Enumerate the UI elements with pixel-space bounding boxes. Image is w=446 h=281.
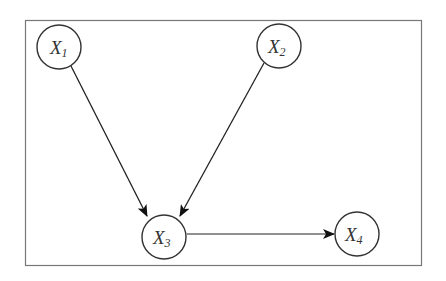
node-x2: X2: [257, 24, 301, 68]
node-x1: X1: [37, 25, 81, 69]
edge-x2-x3: [180, 63, 264, 216]
edge-x1-x3: [71, 66, 147, 216]
bayesian-network-diagram: X1 X2 X3 X4: [0, 0, 446, 281]
node-x4: X4: [335, 212, 379, 256]
edges: [71, 63, 334, 234]
node-x3: X3: [142, 215, 186, 259]
